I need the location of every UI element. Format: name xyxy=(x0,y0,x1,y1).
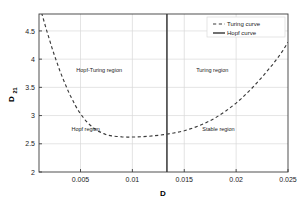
x-axis-title: D xyxy=(160,189,166,198)
legend-label: Hopf curve xyxy=(227,30,257,36)
y-tick-label: 3 xyxy=(31,112,35,119)
y-tick-label: 4 xyxy=(31,56,35,63)
region-label: Turing region xyxy=(196,67,228,73)
x-tick-label: 0.02 xyxy=(229,176,243,183)
x-tick-label: 0.005 xyxy=(72,176,90,183)
y-tick-label: 3.5 xyxy=(25,84,35,91)
y-tick-label: 4.5 xyxy=(25,28,35,35)
x-tick-label: 0.025 xyxy=(279,176,297,183)
chart-figure: 0.0050.010.0150.020.02522.533.544.5 Hopf… xyxy=(0,0,306,202)
chart-legend[interactable]: Turing curveHopf curve xyxy=(207,17,285,37)
y-tick-label: 2 xyxy=(31,169,35,176)
region-label: Stable region xyxy=(202,126,234,132)
x-tick-label: 0.015 xyxy=(175,176,193,183)
region-label: Hopf-Turing region xyxy=(76,67,122,73)
region-label: Hopf region xyxy=(71,126,99,132)
legend-label: Turing curve xyxy=(227,21,261,27)
y-axis-title-subscript: 21 xyxy=(12,87,18,93)
chart-canvas: 0.0050.010.0150.020.02522.533.544.5 Hopf… xyxy=(0,0,306,202)
y-axis-title: D xyxy=(7,96,16,102)
y-tick-label: 2.5 xyxy=(25,140,35,147)
x-tick-label: 0.01 xyxy=(126,176,140,183)
